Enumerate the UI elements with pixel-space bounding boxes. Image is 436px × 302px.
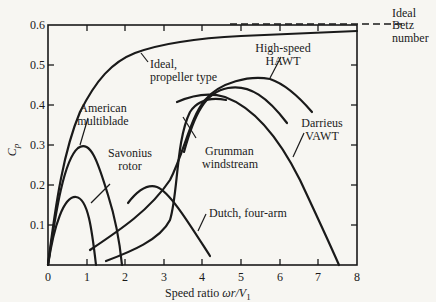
y-axis-label: Cp xyxy=(5,143,21,156)
curve-high-speed-hawt-lower xyxy=(184,87,287,152)
label-grumman-1: Grumman xyxy=(205,144,254,158)
label-american-1: American xyxy=(79,101,126,115)
label-american-2: multiblade xyxy=(77,114,128,128)
x-tick-2: 2 xyxy=(122,270,128,284)
y-tick-labels: 0.1 0.2 0.3 0.4 0.5 0.6 xyxy=(30,18,45,232)
x-tick-7: 7 xyxy=(315,270,321,284)
label-hawt-2: HAWT xyxy=(265,54,301,68)
label-savonius-1: Savonius xyxy=(108,146,152,160)
x-tick-labels: 0 1 2 3 4 5 6 7 8 xyxy=(45,270,360,284)
svg-text:Cp: Cp xyxy=(5,143,21,156)
label-darrieus-2: VAWT xyxy=(305,129,339,143)
x-tick-6: 6 xyxy=(277,270,283,284)
y-tick-0.2: 0.2 xyxy=(30,178,45,192)
curve-ideal-propeller xyxy=(48,31,357,265)
x-tick-4: 4 xyxy=(199,270,205,284)
label-savonius-2: rotor xyxy=(118,159,141,173)
x-tick-8: 8 xyxy=(354,270,360,284)
label-betz-2: Betz xyxy=(392,18,414,32)
chart: 0 1 2 3 4 5 6 7 8 0.1 0.2 0.3 0.4 0.5 0.… xyxy=(0,0,436,302)
x-tick-1: 1 xyxy=(84,270,90,284)
x-axis-label: Speed ratio ωr/V1 xyxy=(165,286,251,302)
label-ideal-propeller-1: Ideal, xyxy=(150,57,177,71)
y-tick-0.5: 0.5 xyxy=(30,58,45,72)
plot-frame xyxy=(48,25,357,265)
x-tick-3: 3 xyxy=(161,270,167,284)
y-tick-0.4: 0.4 xyxy=(30,98,45,112)
y-tick-0.1: 0.1 xyxy=(30,218,45,232)
x-tick-5: 5 xyxy=(238,270,244,284)
label-ideal-propeller-2: propeller type xyxy=(150,70,217,84)
x-tick-0: 0 xyxy=(45,270,51,284)
label-hawt-1: High-speed xyxy=(255,41,310,55)
y-tick-0.3: 0.3 xyxy=(30,138,45,152)
label-darrieus-1: Darrieus xyxy=(301,116,343,130)
label-grumman-2: windstream xyxy=(202,157,259,171)
label-dutch: Dutch, four-arm xyxy=(209,206,287,220)
label-betz-3: number xyxy=(392,31,429,45)
y-tick-0.6: 0.6 xyxy=(30,18,45,32)
